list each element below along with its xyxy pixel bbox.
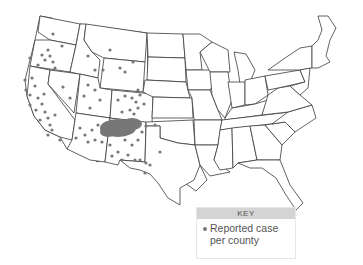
key-label-line2: per county (210, 234, 291, 246)
case-dot-icon (203, 227, 207, 231)
key-header: KEY (197, 208, 295, 219)
state-outlines (25, 16, 336, 210)
us-map (0, 0, 363, 265)
key-label-line1: Reported case (210, 222, 291, 234)
map-key: KEY Reported case per county (196, 207, 296, 259)
key-item: Reported case per county (197, 219, 295, 246)
